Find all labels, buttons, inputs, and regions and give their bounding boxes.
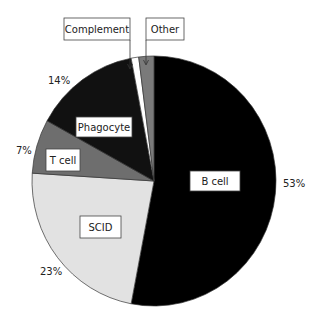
label-phagocyte: Phagocyte [76,117,132,137]
label-t-cell: T cell [46,149,80,171]
pct-scid: 23% [40,266,62,277]
svg-text:T cell: T cell [49,155,77,166]
svg-text:B cell: B cell [201,176,228,187]
svg-text:SCID: SCID [89,222,113,233]
pct-b-cell: 53% [283,178,305,189]
svg-text:Phagocyte: Phagocyte [78,122,130,133]
pct-t-cell: 7% [16,145,32,156]
pct-phagocyte: 14% [48,75,70,86]
pie-chart: B cell SCID T cell Phagocyte Complement … [0,0,320,323]
svg-text:Complement: Complement [65,24,129,35]
label-b-cell: B cell [190,171,240,191]
label-scid: SCID [80,216,121,238]
svg-text:Other: Other [151,24,180,35]
